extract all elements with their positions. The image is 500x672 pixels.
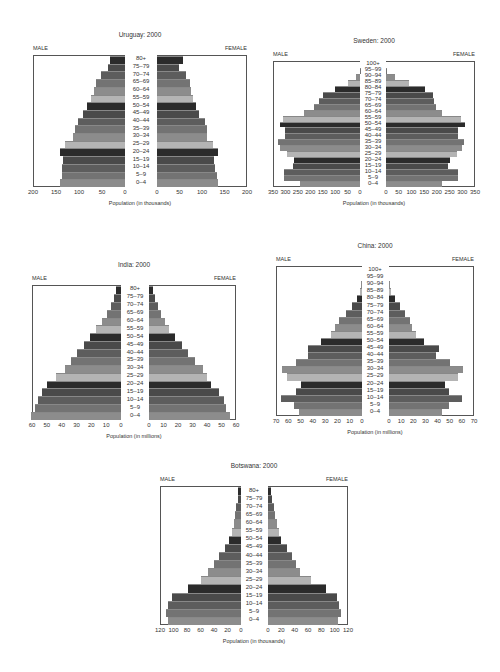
age-group-label: 20–24 <box>239 584 269 590</box>
age-group-label: 40–44 <box>239 552 269 558</box>
chart-title: Botswana: 2000 <box>214 462 294 469</box>
age-group-label: 25–29 <box>239 576 269 582</box>
age-group-label: 60–64 <box>239 519 269 525</box>
female-bar <box>268 519 277 527</box>
age-group-label: 65–69 <box>239 511 269 517</box>
male-plot-area <box>160 486 241 625</box>
female-axis-tick: 80 <box>318 627 325 633</box>
female-bar <box>268 511 275 519</box>
male-bar <box>208 568 241 576</box>
female-bar <box>268 544 287 552</box>
female-axis-tick: 120 <box>343 627 353 633</box>
female-bar <box>268 536 281 544</box>
age-group-label: 0–4 <box>239 616 269 622</box>
female-bar <box>268 576 311 584</box>
x-axis-label: Population (in thousands) <box>223 638 285 644</box>
female-axis-tick: 100 <box>330 627 340 633</box>
age-group-label: 50–54 <box>239 535 269 541</box>
male-bar <box>188 584 241 592</box>
female-plot-area <box>268 486 348 625</box>
male-label: MALE <box>160 476 175 482</box>
male-bar <box>201 576 241 584</box>
male-bar <box>172 593 241 601</box>
female-bar <box>268 560 296 568</box>
female-bar <box>268 528 279 536</box>
female-bar <box>268 568 300 576</box>
female-axis-tick: 0 <box>266 627 269 633</box>
female-bar <box>268 584 326 592</box>
female-bar <box>268 609 341 617</box>
age-group-label: 70–74 <box>239 503 269 509</box>
male-axis-tick: 120 <box>155 627 165 633</box>
age-group-label: 15–19 <box>239 592 269 598</box>
age-group-label: 45–49 <box>239 543 269 549</box>
female-axis-tick: 60 <box>305 627 312 633</box>
pyramid-botswana: Botswana: 2000MALEFEMALE80+75–7970–7465–… <box>0 0 500 672</box>
age-group-label: 35–39 <box>239 560 269 566</box>
male-axis-tick: 100 <box>168 627 178 633</box>
female-axis-tick: 40 <box>291 627 298 633</box>
age-group-label: 55–59 <box>239 527 269 533</box>
male-bar <box>166 609 241 617</box>
male-bar <box>168 601 241 609</box>
female-bar <box>268 593 337 601</box>
female-bar <box>268 617 338 625</box>
age-group-label: 10–14 <box>239 600 269 606</box>
age-group-label: 5–9 <box>239 608 269 614</box>
male-axis-tick: 40 <box>211 627 218 633</box>
age-group-label: 75–79 <box>239 495 269 501</box>
male-bar <box>214 560 241 568</box>
female-bar <box>268 601 339 609</box>
female-bar <box>268 552 292 560</box>
female-label: FEMALE <box>326 476 348 482</box>
female-axis-tick: 20 <box>278 627 285 633</box>
male-axis-tick: 0 <box>239 627 242 633</box>
male-axis-tick: 60 <box>197 627 204 633</box>
male-bar <box>168 617 241 625</box>
age-group-label: 80+ <box>239 487 269 493</box>
age-group-label: 30–34 <box>239 568 269 574</box>
male-axis-tick: 80 <box>184 627 191 633</box>
male-bar <box>219 552 241 560</box>
male-axis-tick: 20 <box>224 627 231 633</box>
